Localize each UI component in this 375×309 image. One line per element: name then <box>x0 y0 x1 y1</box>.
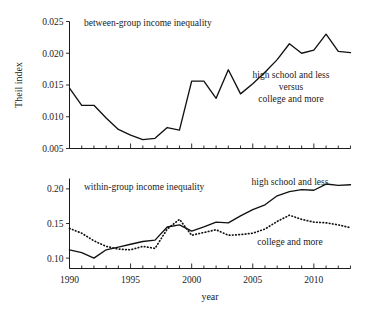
annotation-college-and-more: college and more <box>257 237 322 247</box>
bottom-panel: within-group income inequality 0.100.150… <box>47 177 351 302</box>
income-inequality-chart: Theil index between-group income inequal… <box>0 0 375 309</box>
y-axis-title: Theil index <box>13 62 24 108</box>
annotation-high-school-and-less: high school and less <box>252 177 329 187</box>
x-tick-label: 1995 <box>121 275 140 285</box>
y-tick-label: 0.15 <box>47 219 64 229</box>
x-tick-label: 2000 <box>182 275 201 285</box>
x-axis-title: year <box>201 291 219 302</box>
x-tick-label: 1990 <box>60 275 79 285</box>
x-tick-label: 2010 <box>304 275 323 285</box>
bottom-panel-title: within-group income inequality <box>84 182 205 192</box>
y-tick-label: 0.005 <box>42 144 64 154</box>
y-tick-label: 0.20 <box>47 184 64 194</box>
series-high-school-vs-college <box>70 34 351 139</box>
y-tick-label: 0.10 <box>47 254 64 264</box>
top-annotation: high school and less versus college and … <box>253 70 330 104</box>
bottom-x-axis: 19901995200020052010 <box>60 264 351 285</box>
annotation-line-3: college and more <box>258 94 323 104</box>
top-panel: between-group income inequality 0.0050.0… <box>42 17 350 154</box>
y-tick-label: 0.020 <box>42 49 64 59</box>
top-x-axis <box>70 144 351 149</box>
figure-container: Theil index between-group income inequal… <box>0 0 375 309</box>
annotation-line-1: high school and less <box>253 70 330 80</box>
bottom-series-group <box>70 184 351 258</box>
annotation-line-2: versus <box>279 82 304 92</box>
top-series-group <box>70 34 351 139</box>
top-y-axis: 0.0050.0100.0150.0200.025 <box>42 17 69 154</box>
y-tick-label: 0.025 <box>42 17 64 27</box>
x-tick-label: 2005 <box>243 275 262 285</box>
y-tick-label: 0.010 <box>42 112 64 122</box>
bottom-y-axis: 0.100.150.20 <box>47 179 70 269</box>
y-tick-label: 0.015 <box>42 80 64 90</box>
top-panel-title: between-group income inequality <box>84 18 212 28</box>
bottom-annotations: high school and less college and more <box>252 177 329 247</box>
